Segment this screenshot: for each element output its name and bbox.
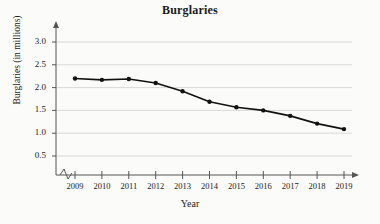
x-tick-label: 2018 [302, 181, 332, 191]
data-point [261, 108, 265, 112]
data-point [342, 127, 346, 131]
up-arrow-icon [53, 21, 59, 28]
x-tick-label: 2016 [248, 181, 278, 191]
x-tick-label: 2015 [221, 181, 251, 191]
data-point [315, 121, 319, 125]
y-tick-marks [52, 42, 56, 156]
y-tick-label: 2.0 [22, 82, 46, 92]
x-tick-label: 2012 [141, 181, 171, 191]
data-points [73, 76, 346, 131]
y-tick-label: 1.0 [22, 127, 46, 137]
data-point [100, 78, 104, 82]
x-tick-label: 2011 [114, 181, 144, 191]
data-point [73, 76, 77, 80]
right-arrow-icon [352, 172, 359, 178]
data-point [180, 89, 184, 93]
axis-break-zigzag-icon [60, 169, 72, 179]
x-tick-label: 2010 [87, 181, 117, 191]
x-tick-label: 2017 [275, 181, 305, 191]
data-point [207, 100, 211, 104]
x-tick-label: 2009 [60, 181, 90, 191]
y-tick-label: 1.5 [22, 104, 46, 114]
data-point [154, 81, 158, 85]
data-point [127, 77, 131, 81]
y-tick-label: 3.0 [22, 36, 46, 46]
chart-figure: Burglaries Burglaries (in millions) Year… [0, 0, 380, 224]
y-tick-label: 0.5 [22, 150, 46, 160]
data-point [234, 105, 238, 109]
x-tick-label: 2019 [329, 181, 359, 191]
x-tick-label: 2013 [168, 181, 198, 191]
data-point [288, 114, 292, 118]
y-tick-label: 2.5 [22, 59, 46, 69]
x-tick-label: 2014 [195, 181, 225, 191]
